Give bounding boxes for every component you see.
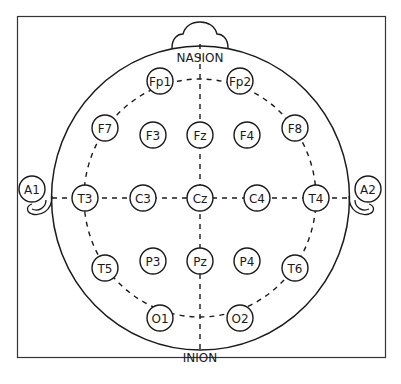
electrode-p3: P3	[140, 248, 166, 274]
electrode-label: F4	[240, 129, 255, 143]
nasion-label: NASION	[177, 51, 224, 65]
electrode-label: Cz	[193, 192, 208, 206]
electrode-o1: O1	[147, 305, 173, 331]
electrode-label: O2	[231, 312, 248, 326]
electrode-o2: O2	[227, 305, 253, 331]
electrode-label: O1	[151, 312, 168, 326]
electrode-label: T4	[308, 192, 324, 206]
electrode-a1: A1	[19, 176, 45, 202]
electrode-label: Fz	[193, 129, 206, 143]
electrode-label: Pz	[193, 255, 207, 269]
electrode-label: P3	[146, 255, 161, 269]
electrode-cz: Cz	[187, 185, 213, 211]
electrode-t5: T5	[92, 255, 118, 281]
electrode-label: Fp2	[229, 75, 251, 89]
electrode-fz: Fz	[187, 122, 213, 148]
inion-label: INION	[183, 351, 217, 365]
electrode-label: Fp1	[149, 75, 171, 89]
electrode-pz: Pz	[187, 248, 213, 274]
electrode-f8: F8	[282, 115, 308, 141]
electrode-t6: T6	[282, 255, 308, 281]
electrode-f4: F4	[234, 122, 260, 148]
electrode-label: A1	[24, 183, 40, 197]
electrode-p4: P4	[234, 248, 260, 274]
electrode-t3: T3	[72, 185, 98, 211]
electrode-label: T5	[97, 262, 113, 276]
electrode-a2: A2	[355, 176, 381, 202]
electrode-label: F8	[288, 122, 303, 136]
electrode-label: T6	[287, 262, 303, 276]
electrode-label: F7	[98, 122, 113, 136]
electrode-f7: F7	[92, 115, 118, 141]
electrode-label: C4	[249, 192, 265, 206]
electrode-label: C3	[135, 192, 151, 206]
electrode-label: F3	[146, 129, 161, 143]
electrode-t4: T4	[303, 185, 329, 211]
electrode-c4: C4	[244, 185, 270, 211]
electrode-c3: C3	[130, 185, 156, 211]
electrode-label: P4	[240, 255, 255, 269]
eeg-diagram: Fp1Fp2F7F3FzF4F8T3C3CzC4T4T5P3PzP4T6O1O2…	[0, 0, 401, 384]
electrode-fp1: Fp1	[147, 68, 173, 94]
electrode-fp2: Fp2	[227, 68, 253, 94]
electrode-label: T3	[77, 192, 93, 206]
electrode-label: A2	[360, 183, 376, 197]
electrode-f3: F3	[140, 122, 166, 148]
